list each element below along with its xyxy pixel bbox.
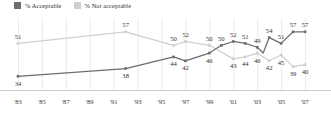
x-axis-tick-label: '01 [229, 98, 237, 105]
x-axis: '83'85'87'89'91'93'95'97'99'01'03'05'07 [0, 96, 331, 113]
value-label: 42 [182, 65, 189, 72]
value-label: 46 [254, 57, 261, 64]
x-axis-tick-label: '97 [182, 98, 190, 105]
value-label: 52 [182, 32, 189, 39]
value-label: 51 [15, 34, 22, 41]
chart-container: % Acceptable % Not acceptable 3438444246… [0, 0, 331, 113]
value-label: 45 [278, 59, 285, 66]
x-axis-tick-label: '91 [110, 98, 118, 105]
data-point-marker [184, 40, 187, 43]
value-label: 57 [302, 22, 309, 29]
chart-svg [0, 18, 331, 96]
data-point-marker [256, 46, 259, 49]
value-label: 50 [170, 36, 177, 43]
data-point-marker [292, 31, 295, 34]
series-line-not-acceptable [18, 32, 305, 67]
data-point-marker [256, 52, 259, 55]
x-axis-tick-label: '93 [134, 98, 142, 105]
data-point-marker [172, 44, 175, 47]
data-point-marker [17, 42, 20, 45]
value-label: 51 [278, 34, 285, 41]
legend-swatch-acceptable-icon [14, 2, 21, 9]
legend-item-not-acceptable[interactable]: % Not acceptable [74, 2, 132, 9]
value-label: 52 [230, 32, 237, 39]
data-point-marker [304, 31, 307, 34]
data-point-marker [17, 75, 20, 78]
data-point-marker [268, 36, 271, 39]
value-label: 43 [230, 63, 237, 70]
legend-swatch-not-acceptable-icon [74, 2, 81, 9]
value-label: 38 [122, 73, 129, 80]
x-axis-tick-label: '87 [62, 98, 70, 105]
value-label: 34 [15, 80, 22, 87]
value-label: 57 [290, 22, 297, 29]
value-label: 51 [242, 34, 249, 41]
data-point-marker [280, 54, 283, 57]
legend-item-acceptable[interactable]: % Acceptable [14, 2, 62, 9]
data-point-marker [124, 31, 127, 34]
data-point-marker [220, 44, 223, 47]
plot-area [0, 18, 331, 96]
value-label: 49 [254, 37, 261, 44]
x-axis-tick-label: '95 [158, 98, 166, 105]
x-axis-tick-label: '07 [301, 98, 309, 105]
data-point-marker [232, 58, 235, 61]
x-axis-tick-label: '99 [205, 98, 213, 105]
data-point-marker [172, 56, 175, 59]
data-point-marker [268, 60, 271, 63]
legend-label-acceptable: % Acceptable [25, 2, 62, 9]
x-axis-tick-label: '85 [38, 98, 46, 105]
chart-legend: % Acceptable % Not acceptable [14, 2, 131, 9]
x-axis-tick-label: '03 [253, 98, 261, 105]
x-axis-tick-label: '05 [277, 98, 285, 105]
value-label: 44 [170, 61, 177, 68]
value-label: 54 [266, 28, 273, 35]
data-point-marker [292, 65, 295, 68]
data-point-marker [232, 40, 235, 43]
value-label: 44 [242, 61, 249, 68]
x-axis-tick-label: '83 [14, 98, 22, 105]
data-point-marker [208, 52, 211, 55]
legend-label-not-acceptable: % Not acceptable [85, 2, 132, 9]
value-label: 50 [218, 36, 225, 43]
value-label: 46 [206, 57, 213, 64]
value-label: 57 [122, 22, 129, 29]
value-label: 39 [290, 71, 297, 78]
data-point-marker [208, 44, 211, 47]
x-axis-tick-label: '89 [86, 98, 94, 105]
data-point-marker [244, 42, 247, 45]
data-point-marker [124, 67, 127, 70]
data-point-marker [244, 56, 247, 59]
value-label: 40 [302, 69, 309, 76]
value-label: 50 [206, 36, 213, 43]
data-point-marker [184, 60, 187, 63]
data-point-marker [304, 63, 307, 66]
data-point-marker [280, 42, 283, 45]
value-label: 42 [266, 65, 273, 72]
